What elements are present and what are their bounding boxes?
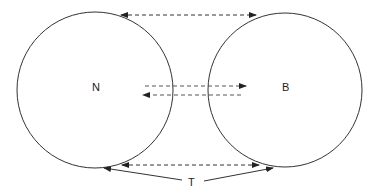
label-t: T [188, 176, 195, 188]
t-arrow-right [204, 168, 273, 181]
t-arrow-left [104, 168, 182, 180]
diagram-canvas: N B T [0, 0, 385, 193]
label-b: B [282, 81, 289, 93]
label-n: N [92, 81, 100, 93]
